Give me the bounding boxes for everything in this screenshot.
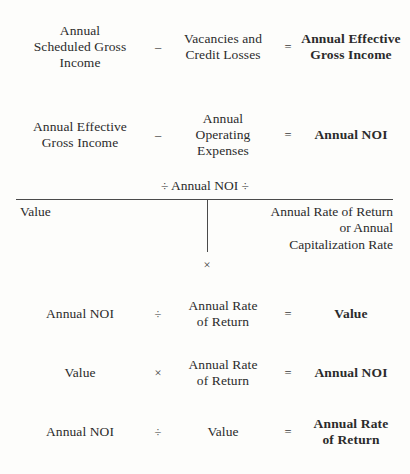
equation-result-term: Annual NOI [301, 127, 401, 143]
term-line: Annual NOI [301, 127, 401, 143]
term-line: Credit Losses [171, 47, 275, 63]
equation-left-term: Annual Scheduled Gross Income [15, 23, 145, 71]
equation-left-term: Annual Effective Gross Income [15, 119, 145, 151]
divider-times-symbol: × [198, 258, 216, 273]
term-line: Vacancies and [171, 31, 275, 47]
term-line: Annual Rate [301, 416, 401, 432]
operator-divide: ÷ [145, 425, 171, 440]
operator-symbol: = [275, 366, 301, 381]
equation-left-term: Annual NOI [15, 306, 145, 322]
divider-top-label: ÷ Annual NOI ÷ [0, 178, 410, 194]
term-line: Annual Effective [15, 119, 145, 135]
equation-left-term: Annual NOI [15, 424, 145, 440]
term-line: Expenses [171, 143, 275, 159]
operator-equals: = [275, 425, 301, 440]
divider-right-label: Annual Rate of Return or Annual Capitali… [153, 204, 393, 253]
term-line: Value [15, 365, 145, 381]
equation-middle-term: Value [171, 424, 275, 440]
term-line: Scheduled Gross [15, 39, 145, 55]
term-line: Annual Effective [301, 31, 401, 47]
term-line: or Annual [153, 220, 393, 236]
equation-row-value-from-noi: Annual NOI ÷ Annual Rate of Return = Val… [0, 296, 410, 332]
operator-equals: = [275, 307, 301, 322]
term-line: Annual [15, 23, 145, 39]
term-line: Annual NOI [15, 306, 145, 322]
divider-horizontal-rule [16, 199, 393, 200]
term-line: Annual NOI [15, 424, 145, 440]
operator-minus: – [145, 40, 171, 55]
term-line: of Return [171, 314, 275, 330]
equation-row-net-operating-income: Annual Effective Gross Income – Annual O… [0, 104, 410, 166]
term-line: Value [171, 424, 275, 440]
operator-minus: – [145, 128, 171, 143]
equation-middle-term: Annual Operating Expenses [171, 111, 275, 159]
equation-result-term: Annual Rate of Return [301, 416, 401, 448]
operator-symbol: = [275, 307, 301, 322]
equation-left-term: Value [15, 365, 145, 381]
equation-row-rate-from-noi-and-value: Annual NOI ÷ Value = Annual Rate of Retu… [0, 414, 410, 450]
divider-left-label: Value [20, 204, 51, 220]
equation-middle-term: Annual Rate of Return [171, 357, 275, 389]
term-line: Annual [171, 111, 275, 127]
operator-symbol: = [275, 40, 301, 55]
equation-result-term: Annual NOI [301, 365, 401, 381]
term-line: Annual Rate [171, 298, 275, 314]
operator-symbol: = [275, 128, 301, 143]
term-line: Gross Income [301, 47, 401, 63]
operator-symbol: – [145, 128, 171, 143]
term-line: Annual Rate of Return [153, 204, 393, 220]
equation-middle-term: Vacancies and Credit Losses [171, 31, 275, 63]
equation-middle-term: Annual Rate of Return [171, 298, 275, 330]
operator-equals: = [275, 40, 301, 55]
operator-equals: = [275, 366, 301, 381]
operator-symbol: = [275, 425, 301, 440]
operator-symbol: × [145, 366, 171, 381]
equation-row-noi-from-value: Value × Annual Rate of Return = Annual N… [0, 355, 410, 391]
equation-result-term: Value [301, 306, 401, 322]
formula-diagram: Annual Scheduled Gross Income – Vacancie… [0, 0, 410, 474]
operator-times: × [145, 366, 171, 381]
term-line: Annual NOI [301, 365, 401, 381]
operator-symbol: – [145, 40, 171, 55]
equation-row-effective-gross-income: Annual Scheduled Gross Income – Vacancie… [0, 18, 410, 76]
operator-symbol: ÷ [145, 307, 171, 322]
operator-equals: = [275, 128, 301, 143]
term-line: Gross Income [15, 135, 145, 151]
term-line: Capitalization Rate [153, 237, 393, 253]
term-line: of Return [301, 432, 401, 448]
operator-divide: ÷ [145, 307, 171, 322]
term-line: Operating [171, 127, 275, 143]
term-line: of Return [171, 373, 275, 389]
term-line: Annual Rate [171, 357, 275, 373]
operator-symbol: ÷ [145, 425, 171, 440]
term-line: Income [15, 55, 145, 71]
noi-divider-block: ÷ Annual NOI ÷ Value Annual Rate of Retu… [0, 178, 410, 278]
equation-result-term: Annual Effective Gross Income [301, 31, 401, 63]
term-line: Value [301, 306, 401, 322]
